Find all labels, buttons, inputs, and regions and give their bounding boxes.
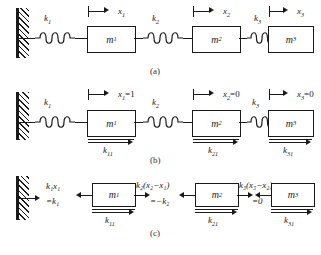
force-result-k2-c: =−k₂ (150, 197, 169, 206)
m1-sub-c: 1 (116, 192, 119, 199)
m2-base-a: m (211, 35, 218, 45)
k3-sub-b: 3 (256, 102, 259, 109)
x1-value-b: =1 (125, 89, 135, 99)
force1-result-c: =k₁ (46, 196, 59, 206)
connector-m2-to-spring3-a (239, 38, 247, 39)
wall-hatching-a (19, 8, 29, 58)
mass-m2-b: m2 (192, 110, 241, 137)
reaction-label-k21-b: k21 (208, 146, 218, 157)
displacement-label-x1-a: x1 (118, 7, 125, 18)
panel-c: k₁x₁ =k₁ m1 k11 k₂(x₂−x₁) (0, 168, 321, 255)
wall-reaction-arrow-c (19, 195, 41, 202)
mass-m2-a: m2 (192, 26, 241, 53)
mass-m1-c: m1 (92, 183, 136, 207)
force-arrow-into-m1-c (76, 192, 92, 199)
spring-label-k3-a: k3 (254, 14, 261, 25)
mass-m1-a: m1 (87, 26, 136, 53)
spring-label-k3-b: k3 (252, 98, 259, 109)
m1-sub-a: 1 (113, 36, 116, 43)
x3-sub-a: 3 (301, 11, 304, 18)
spring-k1-b (35, 112, 75, 132)
panel-caption-b: (b) (150, 155, 161, 165)
k21-sub-b: 21 (212, 150, 218, 157)
m3-sub-b: 3 (293, 120, 296, 127)
k31-sub-c: 31 (288, 220, 294, 227)
spring-k2-a (143, 28, 183, 48)
force-label-k2dx-c: k₂(x₂−x₁) (136, 181, 169, 190)
displacement-marker-x1-a (88, 6, 118, 17)
force-arrow-out-m1-c (134, 192, 150, 199)
force2-result-c: =−k₂ (150, 196, 169, 206)
m3-sub-a: 3 (293, 36, 296, 43)
displacement-marker-x3-a (269, 6, 299, 17)
x2-value-b: =0 (230, 89, 240, 99)
k11-sub-b: 11 (107, 150, 113, 157)
force2-expression-c: k₂(x₂−x₁) (136, 180, 169, 190)
x3-arrowhead-a (283, 7, 288, 13)
k11-arrowhead-b (128, 139, 133, 145)
k1-sub-b: 1 (48, 102, 51, 109)
displacement-marker-x2-b (193, 89, 223, 100)
mass-m2-c: m2 (195, 183, 239, 207)
m3-base-a: m (286, 35, 293, 45)
connector-m1-to-spring2-b (134, 122, 143, 123)
panel-a: k1 m1 x1 k2 m2 (0, 0, 321, 85)
k31-botline-c (271, 212, 307, 213)
m1-sub-b: 1 (113, 120, 116, 127)
x2-sub-a: 2 (227, 11, 230, 18)
displacement-label-x1-b: x1=1 (118, 90, 135, 101)
mass-m3-box-a: m3 (268, 26, 314, 53)
displacement-label-x3-a: x3 (297, 7, 304, 18)
displacement-label-x3-b: x3=0 (297, 90, 314, 101)
k11-sub-c: 11 (109, 220, 115, 227)
reaction-label-k31-b: k31 (283, 146, 293, 157)
k31-arrowhead-c (307, 209, 312, 215)
m1-base-a: m (106, 35, 113, 45)
mass-m1-b: m1 (87, 110, 136, 137)
force-arrow-m3-head-c (255, 192, 260, 198)
connector-spring1-to-m1-b (75, 122, 87, 123)
force3-expression-c: k₃(x₃−x₂) (239, 180, 272, 190)
x2-arrowhead-a (209, 7, 214, 13)
k21-arrowhead-b (233, 139, 238, 145)
spring-k2-b (143, 112, 183, 132)
wall-fixed-support-a (16, 8, 29, 58)
x1-arrowhead-a (104, 7, 109, 13)
spring-label-k1-b: k1 (44, 98, 51, 109)
connector-m2-to-spring3-b (239, 122, 247, 123)
x2-arrowhead-b (209, 90, 214, 96)
force-label-k1x1-c: k₁x₁ (46, 182, 60, 191)
k21-arrowhead-c (232, 209, 237, 215)
m3-base-c: m (288, 190, 295, 200)
connector-wall-to-spring1-b (19, 122, 35, 123)
reaction-label-k21-c: k21 (208, 216, 218, 227)
mass-m3-c: m3 (271, 183, 315, 207)
panel-caption-a: (a) (150, 66, 160, 76)
m2-base-c: m (212, 190, 219, 200)
displacement-label-x2-b: x2=0 (223, 90, 240, 101)
connector-spring2-to-m2-a (183, 38, 192, 39)
k3-sub-a: 3 (258, 18, 261, 25)
force-result-k1-c: =k₁ (46, 197, 59, 206)
displacement-marker-x3-b (269, 89, 299, 100)
k31-sub-b: 31 (287, 150, 293, 157)
m1-base-c: m (109, 190, 116, 200)
m3-base-b: m (286, 119, 293, 129)
x3-value-b: =0 (304, 89, 314, 99)
spring-k1-a (35, 28, 75, 48)
m2-sub-b: 2 (218, 120, 221, 127)
reaction-label-k11-b: k11 (103, 146, 113, 157)
k11-botline-b (88, 142, 128, 143)
force-arrow-into-m2-c (179, 192, 195, 199)
k2-sub-b: 2 (156, 102, 159, 109)
k11-arrowhead-c (129, 209, 134, 215)
k31-arrowhead-b (306, 139, 311, 145)
connector-spring1-to-m1-a (75, 38, 87, 39)
force1-expression-c: k₁x₁ (46, 181, 60, 191)
spring-label-k2-b: k2 (152, 98, 159, 109)
force-arrow-out-m2-c (237, 192, 253, 199)
displacement-marker-x2-a (193, 6, 223, 17)
force-label-k3dx-c: k₃(x₃−x₂) (239, 181, 272, 190)
k11-botline-c (92, 212, 129, 213)
k1-sub-a: 1 (48, 18, 51, 25)
